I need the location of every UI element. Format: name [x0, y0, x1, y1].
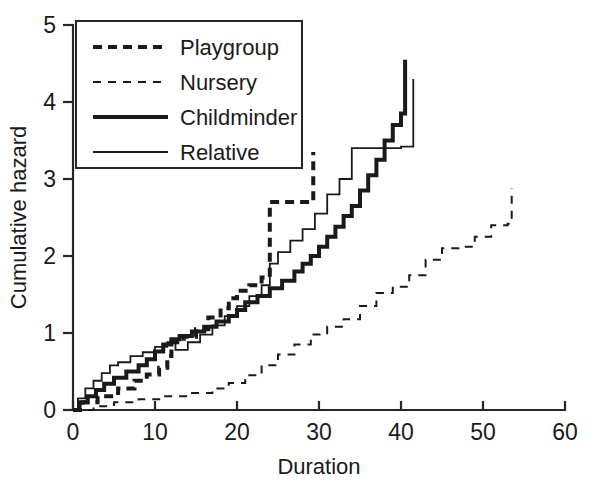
y-tick-label-0: 0	[43, 397, 56, 423]
chart-legend: PlaygroupNurseryChildminderRelative	[76, 21, 302, 168]
legend-label-childminder: Childminder	[180, 105, 297, 130]
x-tick-label-50: 50	[470, 419, 496, 445]
y-tick-label-5: 5	[43, 12, 56, 38]
y-axis-ticks: 012345	[43, 12, 73, 423]
legend-label-nursery: Nursery	[180, 70, 257, 95]
y-tick-label-1: 1	[43, 320, 56, 346]
x-axis-ticks: 0102030405060	[67, 401, 578, 445]
y-tick-label-4: 4	[43, 89, 56, 115]
legend-label-relative: Relative	[180, 140, 259, 165]
x-tick-label-30: 30	[306, 419, 332, 445]
x-tick-label-60: 60	[552, 419, 578, 445]
x-tick-label-10: 10	[142, 419, 168, 445]
legend-label-playgroup: Playgroup	[180, 35, 279, 60]
cumulative-hazard-chart: 0102030405060012345DurationCumulative ha…	[0, 0, 597, 490]
x-tick-label-20: 20	[224, 419, 250, 445]
y-tick-label-2: 2	[43, 243, 56, 269]
series-line-nursery	[73, 188, 512, 410]
x-tick-label-40: 40	[388, 419, 414, 445]
chart-figure: 0102030405060012345DurationCumulative ha…	[0, 0, 597, 490]
x-tick-label-0: 0	[67, 419, 80, 445]
y-axis-title: Cumulative hazard	[6, 126, 31, 309]
x-axis-title: Duration	[277, 454, 360, 479]
y-tick-label-3: 3	[43, 166, 56, 192]
